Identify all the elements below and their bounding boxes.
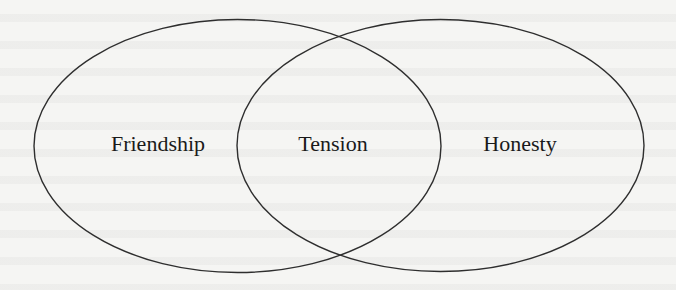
friendship-label: Friendship [111,131,205,156]
venn-diagram: Friendship Tension Honesty [0,0,676,290]
honesty-label: Honesty [483,131,556,156]
tension-label: Tension [298,131,367,156]
venn-diagram-canvas: Friendship Tension Honesty [0,0,676,290]
